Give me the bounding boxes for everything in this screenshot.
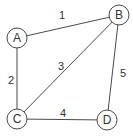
node-a-label: A [13, 31, 21, 45]
edge-weight-a-b: 1 [59, 9, 65, 21]
edge-weight-b-c: 3 [58, 60, 64, 72]
edge-c-d [17, 119, 107, 120]
node-a: A [7, 28, 27, 48]
node-d-label: D [103, 113, 112, 127]
edge-weight-b-d: 5 [120, 67, 126, 79]
graph-svg: 1 2 3 4 5 A B C D [0, 0, 133, 136]
graph-diagram: 1 2 3 4 5 A B C D [0, 0, 133, 136]
node-b: B [109, 5, 129, 25]
edge-b-d [107, 15, 119, 120]
edge-a-b [17, 15, 119, 38]
node-c-label: C [13, 112, 22, 126]
edges-group [17, 15, 119, 120]
edge-weight-a-c: 2 [8, 74, 14, 86]
node-c: C [7, 109, 27, 129]
node-d: D [97, 110, 117, 130]
node-b-label: B [115, 8, 123, 22]
edge-weight-c-d: 4 [60, 107, 66, 119]
edge-b-c [17, 15, 119, 119]
